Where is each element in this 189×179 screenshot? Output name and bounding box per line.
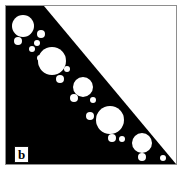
white-circle-void (56, 75, 64, 83)
white-circle-void (86, 112, 94, 120)
white-circle-void (138, 153, 146, 161)
binary-image-canvas (6, 6, 176, 164)
white-circle-void (132, 133, 152, 153)
white-circle-void (38, 47, 66, 75)
figure-panel: b (0, 0, 189, 179)
white-circle-void (96, 106, 124, 134)
panel-label: b (14, 146, 29, 163)
white-circle-void (12, 15, 34, 37)
white-circle-void (34, 40, 40, 46)
white-circle-void (73, 77, 93, 97)
white-circle-void (37, 55, 43, 61)
white-circle-void (29, 46, 35, 52)
white-circle-void (119, 136, 125, 142)
white-circle-void (108, 134, 116, 142)
white-circle-void (90, 97, 96, 103)
white-circle-void (70, 94, 78, 102)
panel-frame: b (5, 5, 177, 165)
white-circle-void (160, 155, 166, 161)
white-circle-void (37, 30, 45, 38)
white-circle-void (64, 66, 70, 72)
white-circle-void (14, 37, 22, 45)
